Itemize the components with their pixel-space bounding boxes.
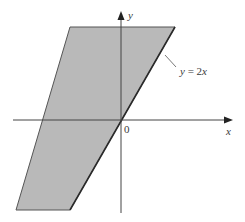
y-axis-arrow-icon — [118, 11, 125, 20]
shaded-region — [16, 27, 175, 210]
region-diagram: y x 0 y = 2x — [0, 0, 245, 222]
x-axis-arrow-icon — [224, 117, 233, 124]
equation-var: x — [201, 65, 207, 77]
x-axis-label: x — [225, 125, 231, 137]
y-axis-label: y — [127, 9, 133, 21]
origin-label: 0 — [124, 123, 130, 135]
equation-eq: = 2 — [185, 65, 202, 77]
label-leader-line — [165, 55, 176, 67]
boundary-equation-label: y = 2x — [179, 65, 207, 77]
